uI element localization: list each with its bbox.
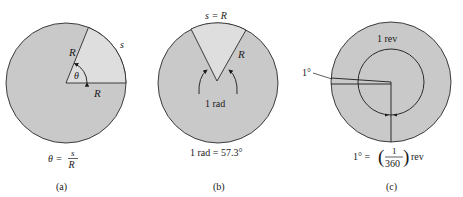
formula-c-denominator: 360 [385, 158, 400, 169]
formula-b: 1 rad = 57.3° [190, 147, 242, 158]
formula-a-numerator: s [71, 148, 75, 158]
panel-c: 1° 1 rev 1° = ( 1 360 ) rev (c) [302, 22, 451, 193]
label-1-degree: 1° [302, 67, 311, 78]
label-s-equals-r: s = R [205, 10, 227, 21]
formula-c-unit: rev [411, 151, 424, 162]
caption-a: (a) [56, 181, 67, 193]
panel-a: R R s θ θ = s R (a) [6, 23, 126, 193]
pointer-leader [313, 73, 332, 79]
label-1-rev: 1 rev [377, 33, 397, 44]
formula-c-close-paren: ) [403, 146, 409, 168]
caption-c: (c) [386, 181, 397, 193]
label-arc-s: s [120, 39, 124, 50]
radian-diagram: R R s θ θ = s R (a) s = R R 1 rad 1 rad … [0, 0, 463, 197]
formula-c-numerator: 1 [392, 146, 397, 156]
formula-c-open-paren: ( [378, 146, 384, 168]
caption-b: (b) [213, 181, 225, 193]
label-radius-lower: R [93, 87, 101, 99]
label-1-rad: 1 rad [205, 98, 225, 109]
label-radius-upper: R [68, 46, 76, 58]
label-radius-b: R [237, 48, 245, 60]
formula-a-lhs: θ = [48, 153, 62, 164]
panel-b: s = R R 1 rad 1 rad = 57.3° (b) [158, 10, 278, 193]
formula-a-denominator: R [68, 159, 75, 170]
label-theta: θ [74, 70, 79, 81]
formula-c-lhs: 1° = [353, 151, 370, 162]
